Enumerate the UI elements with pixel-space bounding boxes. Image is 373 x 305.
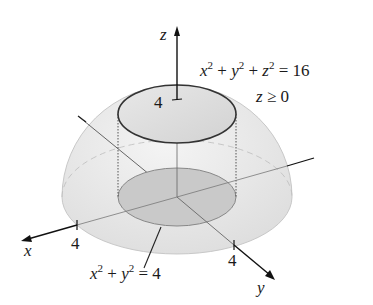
constraint-var: z: [256, 87, 263, 106]
cyl-eq-rhs: = 4: [134, 264, 161, 283]
cyl-eq-y: y: [121, 264, 129, 283]
y-axis-label: y: [257, 279, 265, 296]
cyl-eq-plus: +: [103, 264, 121, 283]
z-axis-label: z: [160, 26, 167, 43]
z-tick-label: 4: [154, 94, 163, 111]
x-axis-label: x: [24, 242, 32, 259]
sphere-equation: x2 + y2 + z2 = 16: [200, 62, 310, 79]
hemisphere-cylinder-figure: z 4 x 4 y 4 x2 + y2 + z2 = 16 z ≥ 0 x2 +…: [0, 0, 373, 305]
z-axis-arrow-icon: [174, 26, 180, 36]
sphere-eq-x: x: [200, 61, 208, 80]
sphere-eq-plus1: +: [213, 61, 231, 80]
x-axis-back-outside: [78, 116, 86, 122]
x-tick-label: 4: [71, 235, 80, 252]
sphere-eq-y: y: [231, 61, 239, 80]
cylinder-equation: x2 + y2 = 4: [90, 265, 161, 282]
sphere-eq-rhs: = 16: [274, 61, 309, 80]
constraint-rel: ≥ 0: [263, 87, 289, 106]
y-axis: [234, 245, 270, 275]
sphere-eq-plus2: +: [244, 61, 262, 80]
cyl-eq-x: x: [90, 264, 98, 283]
x-axis: [28, 225, 77, 239]
sphere-eq-z: z: [262, 61, 269, 80]
diagram-canvas: [0, 0, 373, 305]
y-axis-back: [287, 158, 314, 166]
y-tick-label: 4: [228, 252, 237, 269]
z-constraint: z ≥ 0: [256, 88, 289, 105]
